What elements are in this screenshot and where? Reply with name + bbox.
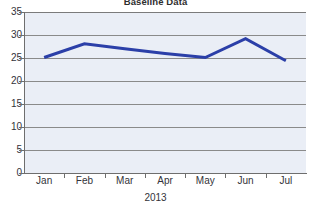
x-tick-mark xyxy=(185,173,186,178)
x-tick-label: Jun xyxy=(226,176,266,186)
x-tick-label: Jan xyxy=(24,176,64,186)
x-tick-label: Feb xyxy=(64,176,104,186)
x-tick-label: Mar xyxy=(105,176,145,186)
x-tick-label: Jul xyxy=(266,176,306,186)
x-axis-title: 2013 xyxy=(0,192,311,203)
series-layer xyxy=(24,12,306,173)
x-tick-mark xyxy=(145,173,146,178)
data-line-baseline-data xyxy=(44,39,286,61)
chart-title: Baseline Data xyxy=(0,0,311,7)
x-tick-mark xyxy=(225,173,226,178)
x-tick-mark xyxy=(105,173,106,178)
x-tick-mark xyxy=(266,173,267,178)
x-axis-line xyxy=(24,173,307,174)
x-tick-mark xyxy=(64,173,65,178)
x-tick-label: Apr xyxy=(145,176,185,186)
x-tick-label: May xyxy=(185,176,225,186)
line-chart: Baseline Data 05101520253035 JanFebMarAp… xyxy=(0,0,311,212)
